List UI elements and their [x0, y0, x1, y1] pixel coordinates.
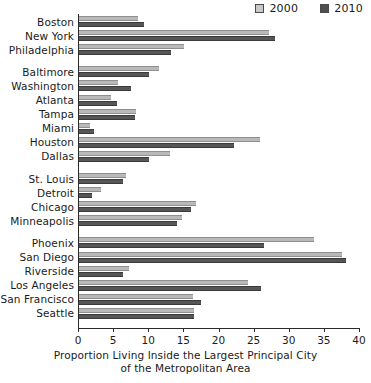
x-tick-mark [219, 328, 220, 332]
legend-swatch-2010-icon [320, 4, 329, 13]
bar-2000 [79, 30, 269, 35]
x-axis-title-line1: Proportion Living Inside the Largest Pri… [54, 349, 317, 361]
bar-2010 [79, 50, 171, 55]
bar-2000 [79, 137, 260, 142]
bar-2010 [79, 300, 201, 305]
category-label: Atlanta [36, 95, 74, 106]
category-label: Tampa [39, 109, 74, 120]
x-tick-label: 0 [75, 334, 82, 346]
bar-2010 [79, 258, 346, 263]
category-label: Detroit [37, 188, 74, 199]
bar-2010 [79, 143, 234, 148]
bar-2010 [79, 286, 261, 291]
x-tick-mark [289, 328, 290, 332]
bar-2010 [79, 22, 144, 27]
category-label: St. Louis [29, 174, 75, 185]
x-tick-mark [324, 328, 325, 332]
x-tick-label: 35 [317, 334, 330, 346]
bar-2000 [79, 95, 111, 100]
legend-swatch-2000-icon [255, 4, 264, 13]
x-tick-mark [113, 328, 114, 332]
bar-2000 [79, 266, 129, 271]
bar-2010 [79, 243, 264, 248]
bar-2010 [79, 179, 123, 184]
category-label: Phoenix [32, 238, 74, 249]
bar-2000 [79, 151, 170, 156]
bar-2000 [79, 252, 342, 257]
x-tick-label: 40 [352, 334, 365, 346]
bar-2010 [79, 221, 177, 226]
plot-area: 0510152025303540 [78, 14, 359, 328]
bar-2010 [79, 115, 135, 120]
bar-2000 [79, 123, 90, 128]
bar-2010 [79, 207, 191, 212]
x-tick-mark [183, 328, 184, 332]
bar-2000 [79, 187, 101, 192]
category-label: Los Angeles [10, 280, 74, 291]
bar-2000 [79, 294, 193, 299]
category-label: Chicago [31, 202, 74, 213]
x-tick-mark [254, 328, 255, 332]
category-label: Washington [11, 81, 74, 92]
x-tick-label: 20 [212, 334, 225, 346]
x-tick-mark [148, 328, 149, 332]
category-label: New York [25, 31, 74, 42]
category-label: Houston [30, 137, 74, 148]
bar-2000 [79, 308, 194, 313]
x-tick-label: 25 [247, 334, 260, 346]
bar-2000 [79, 109, 136, 114]
bar-2000 [79, 173, 126, 178]
bar-2000 [79, 80, 118, 85]
x-tick-label: 15 [177, 334, 190, 346]
category-label: Seattle [36, 308, 74, 319]
bar-2000 [79, 237, 314, 242]
category-label: Miami [42, 123, 74, 134]
bar-2010 [79, 86, 131, 91]
bar-2010 [79, 101, 117, 106]
x-tick-label: 30 [282, 334, 295, 346]
x-axis-title-line2: of the Metropolitan Area [0, 362, 371, 375]
bar-2010 [79, 129, 94, 134]
x-axis-title: Proportion Living Inside the Largest Pri… [0, 349, 371, 375]
category-label: San Francisco [1, 294, 74, 305]
category-label: Riverside [24, 266, 74, 277]
bar-2010 [79, 72, 149, 77]
category-label: Baltimore [22, 67, 74, 78]
bar-2000 [79, 201, 196, 206]
category-label: Philadelphia [9, 45, 74, 56]
x-tick-label: 5 [110, 334, 117, 346]
bar-2010 [79, 157, 149, 162]
bar-2010 [79, 193, 92, 198]
bar-2000 [79, 66, 159, 71]
category-label: Dallas [41, 151, 74, 162]
category-label: Minneapolis [10, 216, 74, 227]
bar-2000 [79, 44, 184, 49]
category-label: San Diego [19, 252, 74, 263]
bar-2010 [79, 272, 123, 277]
bar-2010 [79, 36, 275, 41]
bar-2000 [79, 16, 138, 21]
category-label: Boston [37, 17, 74, 28]
bar-2000 [79, 215, 182, 220]
bar-chart: 2000 2010 0510152025303540 BostonNew Yor… [0, 0, 371, 383]
bar-2000 [79, 280, 248, 285]
x-tick-mark [78, 328, 79, 332]
x-tick-label: 10 [142, 334, 155, 346]
bar-2010 [79, 314, 194, 319]
x-tick-mark [359, 328, 360, 332]
